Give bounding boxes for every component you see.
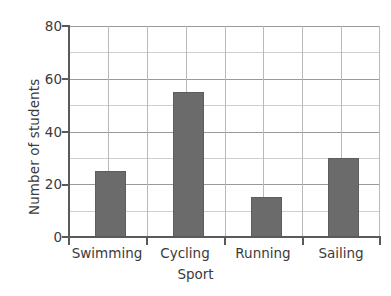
x-category-label-cycling: Cycling — [146, 245, 224, 261]
y-tick-label-80: 80 — [28, 19, 62, 33]
x-category-label-swimming: Swimming — [68, 245, 146, 261]
gridline-v-6 — [302, 26, 303, 237]
gridline-v-8 — [379, 26, 380, 237]
x-tick-mark-1 — [146, 238, 148, 245]
y-tick-label-40: 40 — [28, 125, 62, 139]
x-tick-mark-0 — [68, 238, 70, 245]
x-tick-mark-4 — [379, 238, 381, 245]
y-tick-mark-40 — [62, 131, 69, 133]
bar-running — [251, 197, 282, 237]
gridline-v-4 — [225, 26, 226, 237]
y-tick-mark-80 — [62, 25, 69, 27]
y-tick-mark-20 — [62, 184, 69, 186]
bar-chart: Number of students 80 60 40 20 0 — [0, 0, 391, 296]
bar-sailing — [328, 158, 359, 237]
x-category-label-running: Running — [224, 245, 302, 261]
x-axis-title: Sport — [0, 266, 391, 282]
y-tick-label-0: 0 — [28, 230, 62, 244]
y-tick-label-60: 60 — [28, 72, 62, 86]
gridline-v-2 — [147, 26, 148, 237]
y-tick-label-20: 20 — [28, 177, 62, 191]
y-tick-mark-60 — [62, 78, 69, 80]
plot-area — [69, 26, 380, 237]
x-category-label-sailing: Sailing — [302, 245, 380, 261]
x-tick-mark-2 — [224, 238, 226, 245]
x-tick-mark-3 — [302, 238, 304, 245]
bar-swimming — [95, 171, 126, 237]
bar-cycling — [173, 92, 204, 237]
